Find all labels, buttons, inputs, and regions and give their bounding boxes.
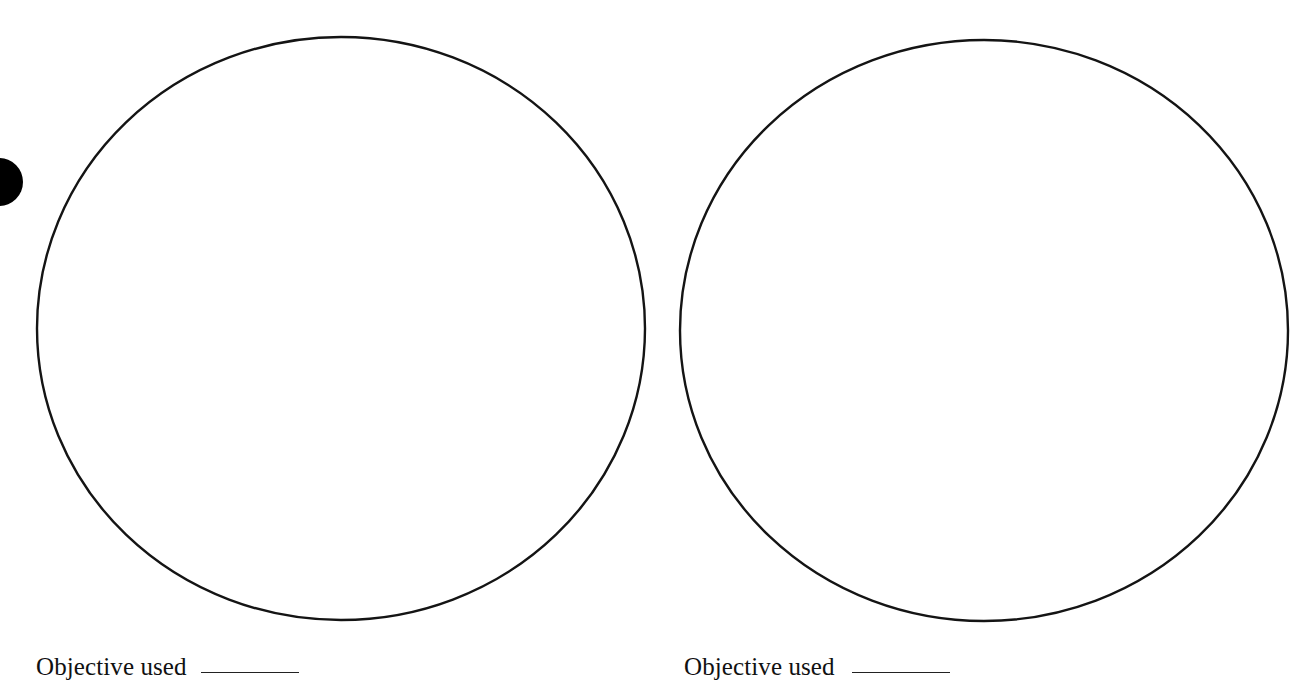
objective-label-left: Objective used	[36, 652, 187, 682]
hole-punch-icon	[0, 158, 23, 206]
objective-answer-blank-left[interactable]	[201, 671, 299, 673]
worksheet-drawing-area	[0, 0, 1313, 683]
objective-caption-left: Objective used	[36, 652, 299, 682]
field-of-view-circle-right[interactable]	[680, 40, 1288, 621]
field-of-view-circle-left[interactable]	[37, 37, 645, 620]
worksheet-page: Objective used Objective used	[0, 0, 1313, 683]
objective-caption-right: Objective used	[684, 652, 950, 682]
objective-answer-blank-right[interactable]	[852, 671, 950, 673]
objective-label-right: Objective used	[684, 652, 835, 682]
